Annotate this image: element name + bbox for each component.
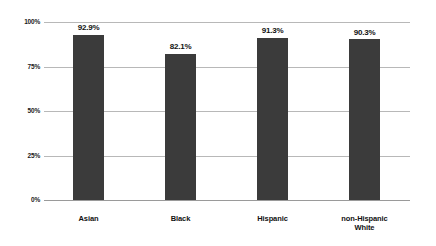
x-axis-label-hispanic: Hispanic bbox=[228, 214, 318, 223]
bar-value-non-hispanic-white: 90.3% bbox=[335, 29, 395, 37]
y-axis-labels: 100% 75% 50% 25% 0% bbox=[0, 0, 40, 246]
y-axis-tick-0: 0% bbox=[2, 197, 40, 204]
bar-value-hispanic: 91.3% bbox=[243, 27, 303, 35]
bar-black[interactable] bbox=[165, 54, 196, 200]
bar-chart: 100% 75% 50% 25% 0% 92.9% 82.1% 91.3% 90… bbox=[0, 0, 436, 246]
y-axis-tick-50: 50% bbox=[2, 108, 40, 115]
x-axis-label-black: Black bbox=[136, 214, 226, 223]
y-axis-tick-25: 25% bbox=[2, 152, 40, 159]
bar-asian[interactable] bbox=[73, 35, 104, 200]
x-axis-label-non-hispanic-white: non-Hispanic White bbox=[320, 214, 410, 233]
bar-non-hispanic-white[interactable] bbox=[349, 39, 380, 200]
y-axis-tick-100: 100% bbox=[2, 19, 40, 26]
bar-value-black: 82.1% bbox=[151, 43, 211, 51]
gridline-baseline-0 bbox=[44, 200, 410, 201]
x-axis-label-asian: Asian bbox=[44, 214, 134, 223]
bar-hispanic[interactable] bbox=[257, 38, 288, 201]
plot-area bbox=[44, 22, 410, 200]
y-axis-tick-75: 75% bbox=[2, 63, 40, 70]
bar-value-asian: 92.9% bbox=[59, 24, 119, 32]
